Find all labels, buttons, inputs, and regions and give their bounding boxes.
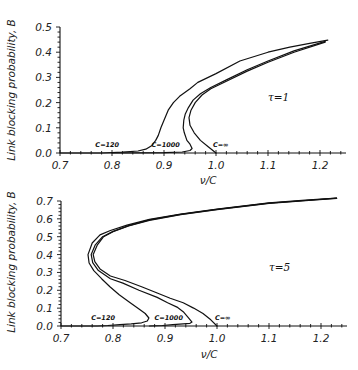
x-tick-label: 0.9 — [156, 159, 173, 171]
curve-c — [93, 198, 336, 326]
curve-c-1000 — [91, 198, 336, 326]
y-axis-title: Link blocking probability, B — [5, 191, 17, 333]
x-tick-label: 1.1 — [261, 332, 278, 344]
y-tick-label: 0.1 — [36, 302, 53, 314]
y-tick-label: 0.4 — [35, 46, 52, 58]
chart-panel-tau-5: 0.70.80.91.01.11.2 0.00.10.20.30.40.50.6… — [5, 191, 347, 360]
curve-label: C=∞ — [213, 141, 229, 149]
x-tick-label: 0.9 — [157, 332, 174, 344]
y-tick-label: 0.1 — [35, 122, 52, 134]
y-axis-title: Link blocking probability, B — [5, 19, 17, 161]
y-tick-label: 0.5 — [36, 231, 53, 243]
curve-c-1000 — [112, 41, 325, 153]
curve-labels: C=120C=1000C=∞ — [95, 141, 228, 149]
y-tick-label: 0.2 — [36, 284, 53, 296]
tau-annotation: τ=5 — [269, 261, 291, 273]
y-tick-label: 0.5 — [35, 21, 52, 33]
curve-label: C=∞ — [215, 314, 231, 322]
y-tick-label: 0.3 — [36, 266, 53, 278]
y-tick-labels: 0.00.10.20.30.40.5 — [35, 21, 52, 159]
y-tick-label: 0.3 — [35, 71, 52, 83]
x-tick-labels: 0.70.80.91.01.11.2 — [53, 332, 330, 344]
x-tick-label: 1.2 — [313, 332, 330, 344]
x-axis-title: ν/C — [201, 348, 218, 360]
x-tick-label: 0.7 — [53, 332, 70, 344]
x-tick-label: 1.2 — [312, 159, 329, 171]
y-tick-label: 0.7 — [36, 195, 53, 207]
tau-annotation: τ=1 — [268, 91, 289, 103]
curve-label: C=120 — [95, 141, 119, 149]
y-tick-labels: 0.00.10.20.30.40.50.60.7 — [36, 195, 53, 332]
x-axis-title: ν/C — [200, 174, 217, 186]
curve-label: C=1000 — [152, 141, 181, 149]
blocking-probability-figure: 0.70.80.91.01.11.2 0.00.10.20.30.40.5 C=… — [0, 0, 358, 370]
x-tick-label: 0.8 — [105, 332, 122, 344]
y-tick-label: 0.0 — [36, 320, 53, 332]
x-tick-labels: 0.70.80.91.01.11.2 — [52, 159, 329, 171]
y-tick-label: 0.6 — [36, 213, 53, 225]
y-tick-label: 0.0 — [35, 147, 52, 159]
curve-c — [189, 42, 325, 153]
y-tick-label: 0.2 — [35, 97, 52, 109]
y-tick-label: 0.4 — [36, 249, 53, 261]
axes — [56, 27, 346, 156]
x-tick-label: 0.7 — [52, 159, 69, 171]
curves — [61, 198, 337, 326]
x-tick-label: 0.8 — [104, 159, 121, 171]
curve-c-120 — [61, 198, 337, 326]
curve-label: C=1000 — [155, 314, 184, 322]
x-tick-label: 1.0 — [209, 332, 226, 344]
axes — [57, 201, 347, 329]
chart-panel-tau-1: 0.70.80.91.01.11.2 0.00.10.20.30.40.5 C=… — [5, 19, 346, 186]
x-tick-label: 1.0 — [208, 159, 225, 171]
curve-label: C=120 — [91, 314, 115, 322]
x-tick-label: 1.1 — [260, 159, 277, 171]
